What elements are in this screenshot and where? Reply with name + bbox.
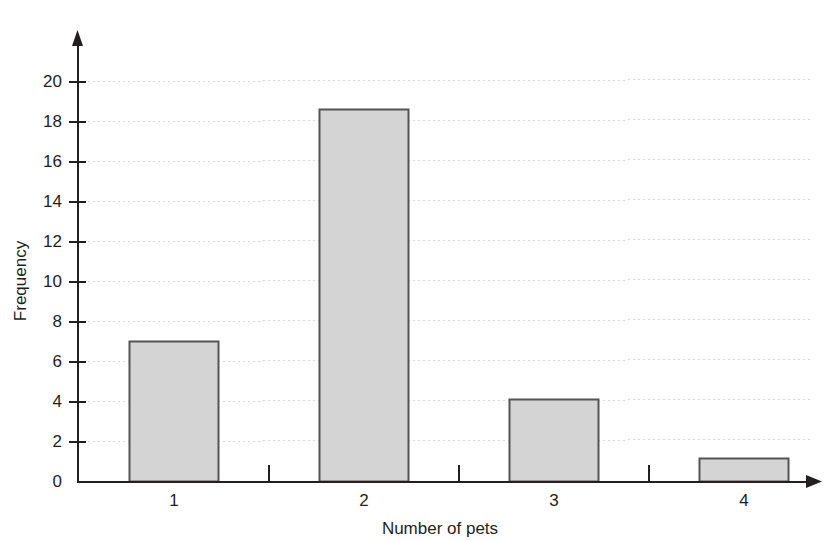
y-tick-label-16: 16 — [43, 152, 62, 171]
y-tick-label-14: 14 — [43, 192, 62, 211]
bar-2 — [320, 110, 409, 482]
y-tick-label-12: 12 — [43, 232, 62, 251]
y-tick-label-20: 20 — [43, 72, 62, 91]
bar-chart-figure: 20 18 16 14 12 10 8 6 4 2 0 1 2 3 4 Numb… — [0, 0, 840, 541]
bar-1 — [130, 342, 219, 482]
y-tick-label-2: 2 — [53, 432, 62, 451]
y-axis-title: Frequency — [11, 240, 30, 321]
chart-canvas: 20 18 16 14 12 10 8 6 4 2 0 1 2 3 4 Numb… — [0, 0, 840, 541]
y-tick-label-18: 18 — [43, 112, 62, 131]
y-tick-label-0: 0 — [53, 472, 62, 491]
x-tick-label-3: 3 — [549, 491, 558, 510]
bar-4 — [700, 459, 789, 482]
x-tick-label-4: 4 — [739, 491, 748, 510]
bar-3 — [510, 400, 599, 482]
y-tick-label-4: 4 — [53, 392, 62, 411]
y-tick-label-10: 10 — [43, 272, 62, 291]
x-axis-title: Number of pets — [382, 519, 498, 538]
y-tick-label-6: 6 — [53, 352, 62, 371]
x-tick-label-2: 2 — [359, 491, 368, 510]
x-tick-label-1: 1 — [169, 491, 178, 510]
y-tick-label-8: 8 — [53, 312, 62, 331]
